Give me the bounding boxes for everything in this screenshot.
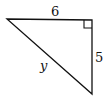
hypotenuse-label: y xyxy=(39,58,48,73)
triangle xyxy=(7,19,92,94)
top-side-label: 6 xyxy=(51,4,59,19)
right-triangle-diagram: 6 5 y xyxy=(0,0,107,101)
right-side-label: 5 xyxy=(95,50,103,65)
right-angle-marker xyxy=(84,20,92,28)
